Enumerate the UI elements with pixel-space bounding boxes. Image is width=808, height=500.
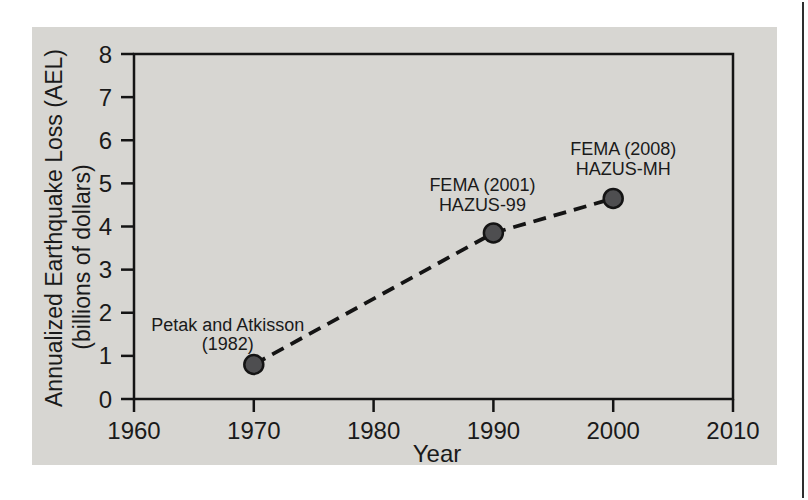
x-tick-label: 1990 bbox=[467, 417, 520, 444]
chart-panel: Annualized Earthquake Loss (AEL) (billio… bbox=[32, 27, 777, 465]
y-axis-title-line1: Annualized Earthquake Loss (AEL) bbox=[41, 49, 67, 407]
point-label-line2: HAZUS-99 bbox=[439, 195, 526, 215]
x-tick-label: 1980 bbox=[347, 417, 400, 444]
x-tick-label: 2000 bbox=[587, 417, 640, 444]
y-tick-label: 4 bbox=[99, 213, 112, 240]
x-tick-label: 2010 bbox=[706, 417, 759, 444]
point-label-line1: FEMA (2001) bbox=[429, 175, 535, 195]
x-tick-label: 1970 bbox=[227, 417, 280, 444]
figure: Annualized Earthquake Loss (AEL) (billio… bbox=[0, 0, 808, 500]
x-tick-label: 1960 bbox=[107, 417, 160, 444]
x-axis-title: Year bbox=[413, 440, 462, 465]
y-tick-label: 2 bbox=[99, 299, 112, 326]
trend-dashed-line bbox=[254, 199, 613, 365]
y-tick-label: 8 bbox=[99, 41, 112, 68]
y-tick-label: 3 bbox=[99, 256, 112, 283]
y-tick-label: 5 bbox=[99, 170, 112, 197]
y-tick-label: 0 bbox=[99, 386, 112, 413]
data-point-marker bbox=[604, 189, 623, 208]
point-label-line1: Petak and Atkisson bbox=[151, 315, 304, 335]
data-point-marker bbox=[244, 355, 263, 374]
point-label-line2: HAZUS-MH bbox=[576, 159, 671, 179]
data-point-marker bbox=[484, 223, 503, 242]
y-tick-label: 7 bbox=[99, 84, 112, 111]
y-tick-label: 1 bbox=[99, 342, 112, 369]
y-axis-title-line2: (billions of dollars) bbox=[69, 164, 95, 349]
y-tick-label: 6 bbox=[99, 127, 112, 154]
point-label-line1: FEMA (2008) bbox=[570, 139, 676, 159]
ael-chart: Annualized Earthquake Loss (AEL) (billio… bbox=[32, 27, 777, 465]
point-label-line2: (1982) bbox=[202, 334, 254, 354]
scan-artifact-line bbox=[802, 2, 804, 498]
